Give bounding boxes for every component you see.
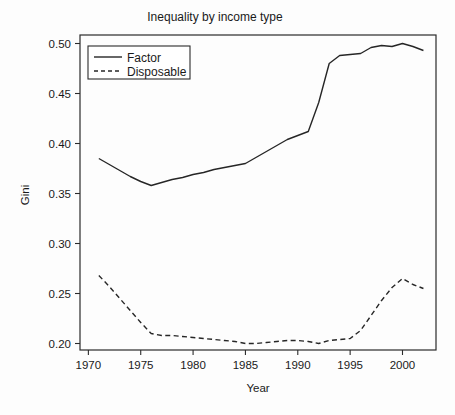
x-tick-label: 1990 (285, 359, 311, 371)
x-tick-label: 1970 (76, 359, 102, 371)
x-tick-label: 1975 (128, 359, 154, 371)
y-tick-label: 0.30 (49, 238, 71, 250)
legend-label-factor: Factor (127, 51, 161, 65)
x-tick-label: 2000 (390, 359, 416, 371)
y-tick-label: 0.25 (49, 288, 71, 300)
y-axis-label: Gini (19, 185, 31, 205)
x-tick-label: 1995 (337, 359, 363, 371)
x-axis-label: Year (246, 382, 269, 394)
y-tick-label: 0.45 (49, 88, 71, 100)
legend-label-disposable: Disposable (127, 65, 187, 79)
x-axis-ticks: 1970197519801985199019952000 (76, 350, 416, 371)
chart-title: Inequality by income type (147, 10, 283, 24)
y-tick-label: 0.50 (49, 38, 71, 50)
data-series-group (99, 44, 424, 344)
series-line-disposable (99, 276, 424, 344)
x-tick-label: 1980 (180, 359, 206, 371)
plot-frame (80, 35, 436, 350)
y-tick-label: 0.40 (49, 138, 71, 150)
y-axis-ticks: 0.200.250.300.350.400.450.50 (49, 38, 80, 350)
chart-figure: Inequality by income type 0.200.250.300.… (0, 0, 455, 415)
inequality-line-chart: Inequality by income type 0.200.250.300.… (0, 0, 455, 415)
x-tick-label: 1985 (233, 359, 259, 371)
y-tick-label: 0.35 (49, 188, 71, 200)
chart-legend: Factor Disposable (88, 46, 190, 79)
y-tick-label: 0.20 (49, 338, 71, 350)
